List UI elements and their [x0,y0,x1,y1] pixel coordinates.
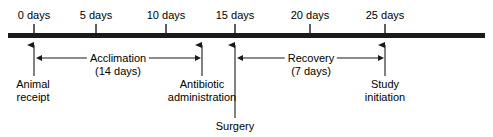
event-label-antibiotic-administration-line1: Antibiotic [180,78,225,91]
timeline-diagram: 0 days 5 days 10 days 15 days 20 days 25… [0,0,493,137]
axis-tick-label-10: 10 days [147,9,186,22]
event-label-animal-receipt-line2: receipt [16,91,49,104]
phase-label-recovery-name: Recovery [285,52,337,65]
timeline-axis-bar [8,33,485,38]
axis-tick-label-15: 15 days [216,9,255,22]
event-label-antibiotic-administration-line2: administration [168,91,236,104]
axis-tick-label-0: 0 days [18,9,50,22]
axis-tick-label-25: 25 days [366,9,405,22]
axis-tick-marks [34,24,385,33]
phase-label-acclimation-duration: (14 days) [92,65,144,78]
event-label-surgery-line1: Surgery [216,120,255,133]
event-label-study-initiation-line1: Study [371,78,399,91]
event-label-study-initiation-line2: initiation [365,91,405,104]
axis-tick-label-20: 20 days [291,9,330,22]
event-label-animal-receipt-line1: Animal [16,78,50,91]
phase-label-recovery-duration: (7 days) [288,65,334,78]
phase-label-acclimation-name: Acclimation [87,52,149,65]
axis-tick-label-5: 5 days [80,9,112,22]
